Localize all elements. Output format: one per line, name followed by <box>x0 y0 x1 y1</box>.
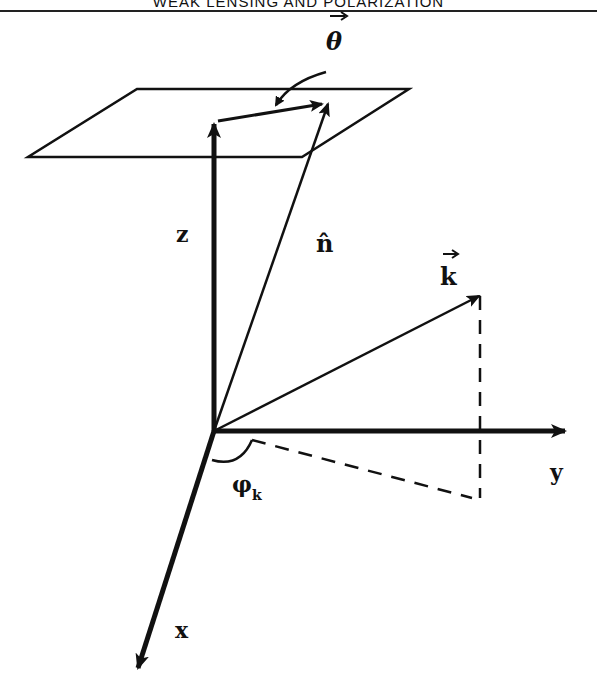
z-axis-label: z <box>176 221 189 247</box>
k-label: k <box>440 250 458 291</box>
svg-text:k: k <box>252 487 262 503</box>
y-axis-label: y <box>549 459 564 485</box>
svg-text:θ: θ <box>326 27 342 56</box>
k-horizontal-projection <box>252 440 472 498</box>
svg-text:φ: φ <box>232 471 252 497</box>
theta-vector <box>218 104 322 121</box>
svg-text:k: k <box>440 262 458 291</box>
theta-label: θ <box>326 12 347 56</box>
phi-k-label: φ k <box>232 471 262 503</box>
n-hat-label: n̂ <box>316 229 333 258</box>
phi-k-arc <box>212 440 252 462</box>
x-axis-label: x <box>175 617 189 643</box>
coordinate-diagram: θ n̂ z k y x φ k <box>0 0 597 699</box>
sky-plane <box>28 89 409 157</box>
